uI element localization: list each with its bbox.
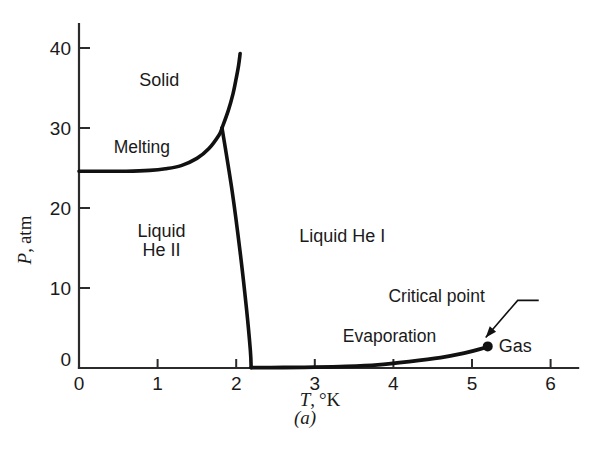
y-tick-label-10: 10: [50, 278, 71, 299]
curve-evaporation-vaporization-curve: [251, 346, 488, 367]
x-tick-label-4: 4: [388, 373, 399, 394]
evaporation-curve-label: Evaporation: [343, 326, 436, 346]
liquid-he2-region-label-2: He II: [143, 240, 181, 260]
y-axis-ticks: [79, 48, 90, 288]
y-axis-title-comma: ,: [14, 248, 35, 253]
critical-point-marker: [483, 341, 493, 351]
y-tick-label-20: 20: [50, 198, 71, 219]
y-axis-title: P,atm: [14, 215, 35, 265]
y-tick-label-30: 30: [50, 118, 71, 139]
y-tick-label-40: 40: [50, 38, 71, 59]
solid-region-label: Solid: [139, 70, 179, 90]
y-axis-title-symbol: P: [14, 252, 35, 265]
data-point-markers: [483, 341, 493, 351]
liquid-he2-region-label-1: Liquid: [138, 221, 186, 241]
melting-curve-label: Melting: [114, 137, 170, 157]
gas-region-label: Gas: [499, 336, 532, 356]
curve-lambda-line-he-ii-he-i: [222, 128, 251, 368]
x-tick-label-1: 1: [152, 373, 163, 394]
helium-phase-diagram-svg: 0123456 010203040 SolidMeltingLiquidHe I…: [0, 0, 596, 471]
x-axis-title-unit: °K: [319, 389, 341, 410]
x-tick-label-2: 2: [231, 373, 242, 394]
x-tick-label-6: 6: [545, 373, 556, 394]
liquid-he1-region-label: Liquid He I: [299, 226, 385, 246]
y-axis-tick-labels: 010203040: [50, 38, 71, 370]
phase-diagram-figure: 0123456 010203040 SolidMeltingLiquidHe I…: [0, 0, 596, 471]
phase-boundary-curves: [79, 54, 488, 368]
curve-solid-liquid-he-i-boundary: [222, 54, 240, 128]
critical-point-label: Critical point: [388, 286, 484, 306]
x-tick-label-5: 5: [467, 373, 478, 394]
x-tick-label-0: 0: [74, 373, 85, 394]
y-axis-title-unit: atm: [14, 215, 35, 244]
y-tick-label-0: 0: [60, 349, 71, 370]
panel-label: (a): [294, 407, 316, 429]
curve-and-region-labels: SolidMeltingLiquidHe IILiquid He IEvapor…: [114, 70, 532, 356]
